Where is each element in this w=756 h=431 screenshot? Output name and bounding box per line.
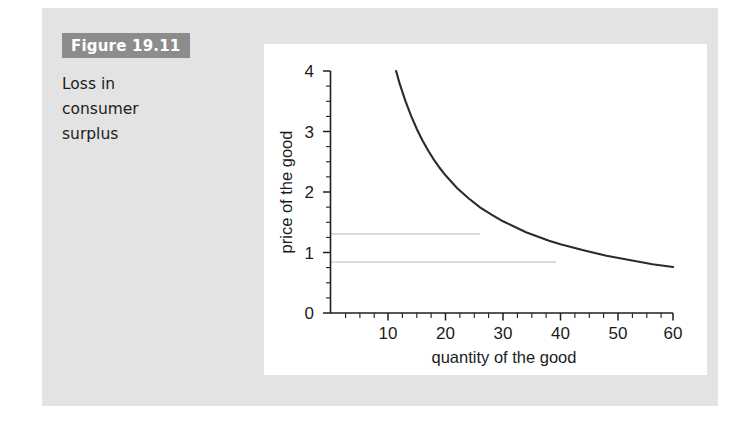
demand-curve-plot: 0 1 2 3 4 10 20 30 40 50 60 price of the… (264, 44, 707, 375)
y-axis-major-ticks (323, 71, 331, 313)
figure-caption-block: Figure 19.11 Loss in consumer surplus (62, 33, 252, 147)
x-tick-label-20: 20 (436, 324, 455, 343)
chart-card: 0 1 2 3 4 10 20 30 40 50 60 price of the… (264, 44, 707, 375)
figure-number-label: Figure 19.11 (71, 37, 180, 55)
x-tick-label-40: 40 (551, 324, 570, 343)
y-tick-label-0: 0 (305, 304, 314, 323)
y-tick-label-4: 4 (305, 62, 314, 81)
demand-curve-line (396, 71, 673, 267)
y-tick-label-1: 1 (305, 244, 314, 263)
y-axis-title: price of the good (277, 131, 295, 254)
figure-root: Figure 19.11 Loss in consumer surplus (0, 0, 756, 431)
figure-number-banner: Figure 19.11 (62, 33, 190, 58)
figure-caption-text: Loss in consumer surplus (62, 72, 192, 147)
price-gridlines (331, 234, 556, 262)
x-tick-label-10: 10 (379, 324, 398, 343)
x-tick-label-50: 50 (609, 324, 628, 343)
y-tick-label-2: 2 (305, 183, 314, 202)
y-tick-label-3: 3 (305, 123, 314, 142)
x-tick-label-30: 30 (494, 324, 513, 343)
x-axis-title: quantity of the good (432, 348, 577, 366)
x-tick-label-60: 60 (664, 324, 683, 343)
